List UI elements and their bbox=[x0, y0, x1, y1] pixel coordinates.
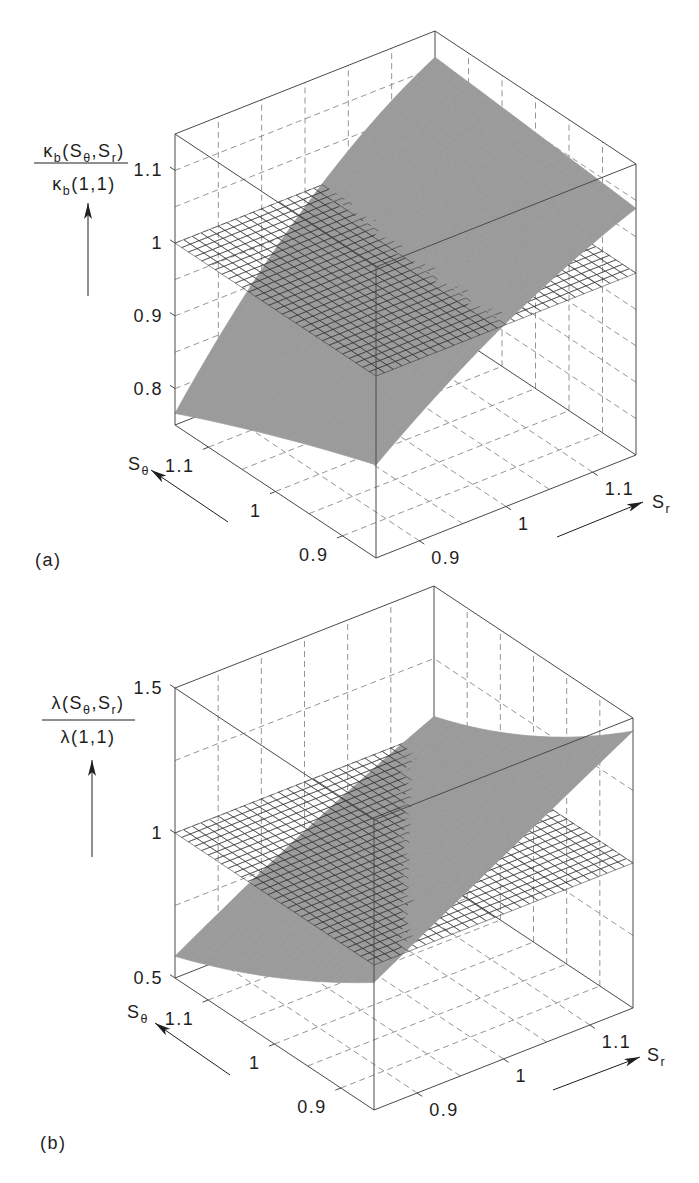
reference-mesh-cell bbox=[192, 233, 207, 241]
reference-mesh-cell bbox=[541, 854, 556, 862]
reference-mesh-cell bbox=[212, 246, 227, 254]
reference-mesh-cell bbox=[549, 886, 564, 894]
y-tick bbox=[504, 1059, 509, 1062]
reference-mesh-cell bbox=[326, 784, 341, 792]
reference-mesh-cell bbox=[316, 795, 331, 803]
reference-mesh-cell bbox=[256, 847, 271, 855]
reference-mesh-cell bbox=[577, 258, 592, 266]
reference-mesh-cell bbox=[218, 813, 233, 821]
reference-mesh-cell bbox=[612, 272, 627, 280]
reference-mesh-cell bbox=[517, 310, 532, 318]
reference-mesh-cell bbox=[585, 837, 600, 845]
reference-mesh-cell bbox=[225, 227, 240, 235]
reference-mesh-cell bbox=[266, 808, 281, 816]
reference-mesh-cell bbox=[214, 238, 229, 246]
reference-mesh-cell bbox=[237, 272, 252, 280]
x-tick bbox=[335, 1088, 341, 1090]
reference-mesh-cell bbox=[238, 236, 253, 244]
reference-mesh-cell bbox=[227, 219, 242, 227]
reference-mesh-cell bbox=[553, 288, 568, 296]
reference-mesh-cell bbox=[244, 212, 259, 220]
x-axis-arrow bbox=[151, 470, 228, 522]
reference-mesh-cell bbox=[516, 892, 531, 900]
reference-mesh-cell bbox=[236, 216, 251, 224]
reference-mesh-cell bbox=[588, 275, 603, 283]
reference-mesh-cell bbox=[499, 898, 514, 906]
z-label-numerator: κb(Sθ,Sr) bbox=[43, 141, 125, 165]
reference-mesh-cell bbox=[251, 835, 266, 843]
chart-panel-b: 0.511.50.911.10.911.1λ(Sθ,Sr)λ(1,1)SθSr(… bbox=[40, 586, 666, 1153]
reference-mesh-cell bbox=[182, 244, 197, 252]
reference-mesh-cell bbox=[245, 240, 260, 248]
reference-mesh-cell bbox=[583, 844, 598, 852]
reference-mesh-cell bbox=[484, 897, 499, 905]
y-tick bbox=[593, 472, 598, 475]
reference-mesh-cell bbox=[256, 229, 271, 237]
panel-label: (a) bbox=[35, 550, 62, 570]
reference-mesh-cell bbox=[510, 887, 525, 895]
reference-mesh-cell bbox=[464, 912, 479, 920]
reference-mesh-cell bbox=[603, 276, 618, 284]
label-text: S bbox=[127, 1002, 141, 1022]
reference-mesh-cell bbox=[223, 825, 238, 833]
reference-mesh-cell bbox=[621, 269, 636, 277]
reference-mesh-cell bbox=[190, 241, 205, 249]
reference-mesh-cell bbox=[251, 217, 266, 225]
reference-mesh-cell bbox=[233, 814, 248, 822]
reference-mesh-cell bbox=[566, 269, 581, 277]
reference-mesh-cell bbox=[354, 766, 369, 774]
reference-mesh-cell bbox=[267, 836, 282, 844]
reference-mesh-cell bbox=[592, 259, 607, 267]
reference-mesh-cell bbox=[555, 862, 570, 870]
reference-mesh-cell bbox=[500, 863, 515, 871]
reference-mesh-cell bbox=[518, 856, 533, 864]
reference-mesh-cell bbox=[264, 816, 279, 824]
label-text: κ bbox=[52, 174, 63, 194]
reference-mesh-cell bbox=[553, 870, 568, 878]
reference-mesh-cell bbox=[228, 865, 243, 873]
reference-mesh-cell bbox=[601, 865, 616, 873]
reference-mesh-cell bbox=[548, 858, 563, 866]
label-text: ,S bbox=[91, 693, 111, 713]
reference-mesh-cell bbox=[214, 828, 229, 836]
reference-mesh-cell bbox=[524, 860, 539, 868]
reference-mesh-cell bbox=[253, 209, 268, 217]
reference-mesh-cell bbox=[583, 872, 598, 880]
reference-mesh-cell bbox=[575, 266, 590, 274]
reference-mesh-cell bbox=[544, 874, 559, 882]
reference-mesh-cell bbox=[537, 841, 552, 849]
reference-mesh-cell bbox=[199, 237, 214, 245]
reference-mesh-cell bbox=[208, 852, 223, 860]
reference-mesh-cell bbox=[575, 876, 590, 884]
reference-mesh-cell bbox=[502, 855, 517, 863]
reference-mesh-cell bbox=[539, 834, 554, 842]
reference-mesh-cell bbox=[527, 880, 542, 888]
reference-mesh-cell bbox=[497, 906, 512, 914]
reference-mesh-cell bbox=[591, 841, 606, 849]
reference-mesh-cell bbox=[543, 818, 558, 826]
reference-mesh-cell bbox=[294, 790, 309, 798]
reference-mesh-cell bbox=[611, 854, 626, 862]
reference-mesh-cell bbox=[533, 885, 548, 893]
reference-mesh-cell bbox=[531, 865, 546, 873]
reference-mesh-cell bbox=[245, 858, 260, 866]
reference-mesh-cell bbox=[230, 857, 245, 865]
z-label-denominator: λ(1,1) bbox=[60, 727, 115, 747]
label-text: ) bbox=[117, 141, 125, 161]
reference-mesh-cell bbox=[296, 782, 311, 790]
reference-mesh-cell bbox=[555, 280, 570, 288]
reference-mesh-cell bbox=[589, 849, 604, 857]
reference-mesh-cell bbox=[534, 303, 549, 311]
reference-mesh-cell bbox=[279, 789, 294, 797]
reference-mesh-cell bbox=[175, 830, 190, 838]
reference-mesh-cell bbox=[594, 251, 609, 259]
reference-mesh-cell bbox=[557, 882, 572, 890]
reference-mesh-cell bbox=[210, 816, 225, 824]
reference-mesh-cell bbox=[275, 832, 290, 840]
reference-mesh-cell bbox=[238, 826, 253, 834]
reference-mesh-cell bbox=[182, 834, 197, 842]
x-tick bbox=[269, 1044, 275, 1046]
reference-mesh-cell bbox=[265, 843, 280, 851]
reference-mesh-cell bbox=[541, 826, 556, 834]
reference-mesh-cell bbox=[239, 854, 254, 862]
